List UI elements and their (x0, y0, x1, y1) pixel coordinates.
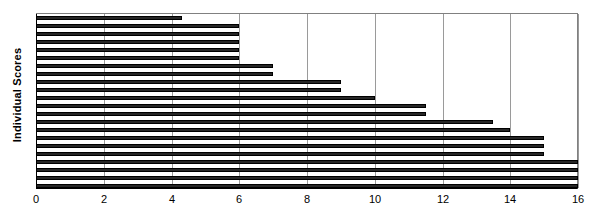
bar (36, 32, 239, 36)
bar-row (36, 16, 182, 20)
bar-row (36, 24, 239, 28)
bar-row (36, 136, 544, 140)
bar (36, 152, 544, 156)
x-tick-label-4: 4 (169, 193, 175, 205)
x-tick-label-16: 16 (572, 193, 584, 205)
bar-row (36, 112, 426, 116)
x-tick-label-0: 0 (33, 193, 39, 205)
bar-row (36, 152, 544, 156)
x-axis: 0246810121416 (36, 189, 578, 219)
x-tick-label-6: 6 (236, 193, 242, 205)
bar (36, 64, 273, 68)
bar-row (36, 96, 375, 100)
y-axis-title-text: Individual Scores (11, 48, 23, 142)
bar-row (36, 88, 341, 92)
bar-row (36, 144, 544, 148)
bar-row (36, 32, 239, 36)
x-tick-label-10: 10 (369, 193, 381, 205)
bar (36, 168, 578, 172)
bar (36, 16, 182, 20)
bar-row (36, 128, 510, 132)
bar-row (36, 56, 239, 60)
bar-row (36, 160, 578, 164)
bar-row (36, 168, 578, 172)
bar (36, 24, 239, 28)
bar (36, 72, 273, 76)
bar (36, 120, 493, 124)
bar (36, 128, 510, 132)
bar (36, 184, 578, 188)
bar-row (36, 40, 239, 44)
bar-series (36, 14, 577, 188)
bar-chart: Individual Scores 0246810121416 (0, 0, 596, 223)
x-tick-label-8: 8 (304, 193, 310, 205)
bar (36, 96, 375, 100)
bar (36, 80, 341, 84)
bar (36, 176, 578, 180)
x-tick-label-2: 2 (101, 193, 107, 205)
bar-row (36, 184, 578, 188)
plot-area (36, 13, 578, 189)
bar (36, 136, 544, 140)
bar-row (36, 64, 273, 68)
bar (36, 88, 341, 92)
bar-row (36, 48, 239, 52)
bar (36, 48, 239, 52)
bar (36, 112, 426, 116)
bar (36, 104, 426, 108)
x-tick-label-14: 14 (504, 193, 516, 205)
y-axis-title: Individual Scores (0, 0, 34, 190)
x-tick-label-12: 12 (437, 193, 449, 205)
bar-row (36, 176, 578, 180)
bar-row (36, 120, 493, 124)
bar (36, 144, 544, 148)
bar-row (36, 104, 426, 108)
bar-row (36, 72, 273, 76)
bar (36, 160, 578, 164)
bar-row (36, 80, 341, 84)
gridline-x-16 (578, 14, 579, 188)
bar (36, 40, 239, 44)
bar (36, 56, 239, 60)
